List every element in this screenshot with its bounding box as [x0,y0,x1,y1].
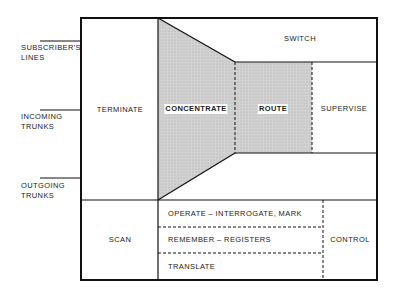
operate-block: OPERATE – INTERROGATE, MARK [168,209,302,219]
route-block: ROUTE [258,104,288,114]
incoming-trunks-label: INCOMINGTRUNKS [21,112,63,132]
terminate-block: TERMINATE [97,105,143,115]
supervise-block: SUPERVISE [321,104,367,114]
switch-block: SWITCH [284,34,316,44]
control-block: CONTROL [330,235,369,245]
concentrate-block: CONCENTRATE [164,104,227,114]
outgoing-trunks-label: OUTGOINGTRUNKS [21,181,65,201]
scan-block: SCAN [109,235,131,245]
subscribers-lines-label: SUBSCRIBER'SLINES [21,43,81,63]
translate-block: TRANSLATE [168,262,215,272]
remember-block: REMEMBER – REGISTERS [168,235,271,245]
